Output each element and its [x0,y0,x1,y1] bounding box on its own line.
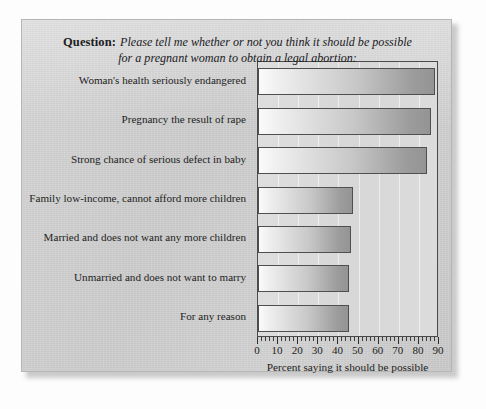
minor-tick [362,337,363,341]
category-label: Strong chance of serious defect in baby [18,154,246,165]
major-tick [418,337,419,344]
minor-tick [289,337,290,341]
question-label: Question: [63,35,116,49]
x-tick-label: 70 [392,345,403,356]
minor-tick [394,337,395,341]
minor-tick [354,337,355,341]
x-axis-tick-labels: 0102030405060708090 [257,345,438,359]
minor-tick [382,337,383,341]
question-text-line-1: Please tell me whether or not you think … [120,35,412,49]
minor-tick [325,337,326,341]
minor-tick [305,337,306,341]
minor-tick [293,337,294,341]
bar [258,305,349,332]
major-tick [438,337,439,344]
plot-area [257,61,438,337]
bar-chart: Woman's health seriously endangeredPregn… [22,20,453,373]
minor-tick [269,337,270,341]
bar [258,68,435,95]
x-tick-label: 90 [433,345,444,356]
minor-tick [345,337,346,341]
figure-root: Question: Please tell me whether or not … [0,0,486,409]
question-text-line-2: for a pregnant woman to obtain a legal a… [34,51,441,67]
bar [258,226,351,253]
x-tick-label: 40 [332,345,343,356]
gridline [419,62,420,336]
minor-tick [341,337,342,341]
x-axis-ticks [257,337,438,344]
x-tick-label: 20 [292,345,303,356]
bar [258,108,431,135]
x-tick-label: 30 [312,345,323,356]
minor-tick [422,337,423,341]
major-tick [257,337,258,344]
category-label: Woman's health seriously endangered [18,75,246,86]
category-label: Family low-income, cannot afford more ch… [18,193,246,204]
minor-tick [402,337,403,341]
category-axis-labels: Woman's health seriously endangeredPregn… [22,61,252,337]
major-tick [358,337,359,344]
minor-tick [426,337,427,341]
minor-tick [301,337,302,341]
category-label: Unmarried and does not want to marry [18,272,246,283]
minor-tick [386,337,387,341]
minor-tick [434,337,435,341]
minor-tick [430,337,431,341]
minor-tick [350,337,351,341]
bar [258,147,427,174]
minor-tick [273,337,274,341]
minor-tick [406,337,407,341]
minor-tick [281,337,282,341]
minor-tick [390,337,391,341]
major-tick [398,337,399,344]
minor-tick [333,337,334,341]
gridline [379,62,380,336]
minor-tick [285,337,286,341]
minor-tick [366,337,367,341]
question-line-1: Question: Please tell me whether or not … [34,30,441,51]
bar [258,187,353,214]
major-tick [378,337,379,344]
minor-tick [309,337,310,341]
x-tick-label: 60 [372,345,383,356]
x-tick-label: 0 [254,345,260,356]
minor-tick [370,337,371,341]
major-tick [297,337,298,344]
minor-tick [329,337,330,341]
major-tick [337,337,338,344]
minor-tick [313,337,314,341]
minor-tick [414,337,415,341]
x-tick-label: 80 [412,345,423,356]
minor-tick [265,337,266,341]
bar [258,265,349,292]
question-heading: Question: Please tell me whether or not … [34,30,441,67]
minor-tick [410,337,411,341]
category-label: Pregnancy the result of rape [18,114,246,125]
major-tick [277,337,278,344]
chart-panel: Question: Please tell me whether or not … [21,19,452,372]
minor-tick [374,337,375,341]
gridline [359,62,360,336]
x-tick-label: 50 [352,345,363,356]
x-axis-title: Percent saying it should be possible [257,361,438,373]
minor-tick [261,337,262,341]
gridline [399,62,400,336]
category-label: Married and does not want any more child… [18,232,246,243]
category-label: For any reason [18,311,246,322]
x-tick-label: 10 [272,345,283,356]
minor-tick [321,337,322,341]
major-tick [317,337,318,344]
